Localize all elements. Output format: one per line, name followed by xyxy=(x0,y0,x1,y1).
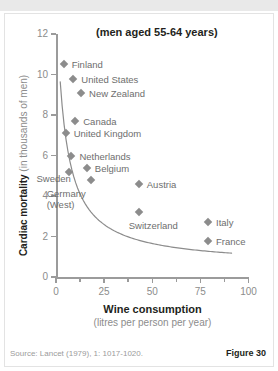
data-point-label: Germany (West) xyxy=(47,188,91,210)
y-tick-label-2: 2 xyxy=(22,231,48,242)
y-tick-label-12: 12 xyxy=(22,28,48,39)
x-tick-label-50: 50 xyxy=(137,286,167,297)
data-point-label: United Kingdom xyxy=(74,128,142,139)
x-tick-label-25: 25 xyxy=(89,286,119,297)
y-tick-label-4: 4 xyxy=(22,190,48,201)
data-point-marker xyxy=(71,117,79,125)
data-point-marker xyxy=(86,176,94,184)
data-point-marker xyxy=(61,129,69,137)
data-point-label: Belgium xyxy=(95,163,129,174)
chart-title: (men aged 55-64 years) xyxy=(96,26,218,38)
y-tick-label-6: 6 xyxy=(22,150,48,161)
x-tick-minor-12.5 xyxy=(79,278,81,282)
data-point-label: Switzerland xyxy=(129,220,178,231)
figure-number: Figure 30 xyxy=(226,348,266,358)
y-tick-10 xyxy=(51,74,56,76)
data-point-label: Canada xyxy=(83,116,116,127)
x-tick-50 xyxy=(152,278,154,283)
data-point-marker xyxy=(67,151,75,159)
x-tick-100 xyxy=(248,278,250,283)
data-point-label: United States xyxy=(81,74,138,85)
y-tick-label-8: 8 xyxy=(22,109,48,120)
y-tick-label-10: 10 xyxy=(22,69,48,80)
chart-scatter-wine-cardiac: (men aged 55-64 years) Cardiac mortality… xyxy=(0,0,278,371)
data-point-marker xyxy=(204,218,212,226)
data-point-marker xyxy=(83,163,91,171)
y-axis-title: Cardiac mortality (in thousands of men) xyxy=(18,51,29,281)
data-point-marker xyxy=(135,208,143,216)
data-point-marker xyxy=(135,180,143,188)
y-axis-line xyxy=(56,34,58,278)
data-point-label: Italy xyxy=(216,217,233,228)
data-point-marker xyxy=(69,74,77,82)
x-tick-label-100: 100 xyxy=(234,286,264,297)
x-tick-minor-37.5 xyxy=(127,278,129,282)
y-tick-8 xyxy=(51,114,56,116)
data-point-marker xyxy=(204,236,212,244)
data-point-marker xyxy=(59,60,67,68)
x-tick-label-0: 0 xyxy=(41,286,71,297)
x-tick-minor-62.5 xyxy=(176,278,178,282)
x-tick-minor-87.5 xyxy=(224,278,226,282)
y-tick-12 xyxy=(51,33,56,35)
x-tick-label-75: 75 xyxy=(185,286,215,297)
x-axis-title: Wine consumption xyxy=(56,303,249,315)
data-point-label: Austria xyxy=(147,179,177,190)
data-point-label: New Zealand xyxy=(89,88,145,99)
y-tick-6 xyxy=(51,155,56,157)
x-tick-0 xyxy=(55,278,57,283)
x-tick-75 xyxy=(200,278,202,283)
data-point-label: France xyxy=(216,236,246,247)
x-tick-25 xyxy=(103,278,105,283)
y-tick-label-0: 0 xyxy=(22,271,48,282)
data-point-marker xyxy=(77,88,85,96)
data-point-label: Netherlands xyxy=(79,151,130,162)
x-axis-subtitle: (litres per person per year) xyxy=(56,317,249,328)
data-point-label: Finland xyxy=(72,59,103,70)
source-note: Source: Lancet (1979), 1: 1017-1020. xyxy=(10,349,143,358)
y-tick-2 xyxy=(51,236,56,238)
y-axis-title-main: Cardiac mortality xyxy=(18,174,29,256)
data-point-label: Sweden xyxy=(36,173,70,184)
